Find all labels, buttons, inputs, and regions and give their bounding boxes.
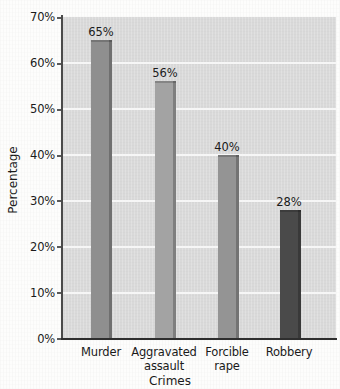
y-tick-label-10: 10% <box>30 286 55 300</box>
y-tick-label-40: 40% <box>30 148 55 162</box>
bar-murder-shadow <box>109 40 112 338</box>
x-category-label-robbery-line1: Robbery <box>247 346 331 360</box>
bar-value-label-robbery: 28% <box>259 195 319 209</box>
y-tick-label-50: 50% <box>30 102 55 116</box>
y-axis-title: Percentage <box>6 136 20 224</box>
bar-murder[interactable] <box>91 40 112 338</box>
bar-forcible-rape-shadow <box>236 155 239 338</box>
plot-area <box>62 17 336 338</box>
x-category-label-forcible-rape-line2: rape <box>185 360 269 374</box>
x-axis-line <box>61 338 337 340</box>
chart-title-cropped <box>0 0 340 4</box>
bar-murder-top <box>91 40 112 42</box>
y-tick-label-0: 0% <box>37 332 55 346</box>
bar-aggravated-assault-shadow <box>173 81 176 338</box>
y-axis-line <box>61 15 63 340</box>
bar-forcible-rape[interactable] <box>218 155 239 338</box>
chart-page: Percentage 70% 60% 50% 40% 30% 20% 10% 0… <box>0 0 340 389</box>
y-tick-label-30: 30% <box>30 194 55 208</box>
y-tick-label-20: 20% <box>30 240 55 254</box>
bar-value-label-aggravated-assault: 56% <box>135 66 195 80</box>
bar-robbery[interactable] <box>280 210 301 338</box>
bar-robbery-top <box>280 210 301 212</box>
bar-value-label-murder: 65% <box>71 25 131 39</box>
y-tick-label-60: 60% <box>30 56 55 70</box>
bar-forcible-rape-top <box>218 155 239 157</box>
bar-aggravated-assault[interactable] <box>155 81 176 338</box>
bar-aggravated-assault-top <box>155 81 176 83</box>
bar-robbery-shadow <box>298 210 301 338</box>
y-tick-label-70: 70% <box>30 10 55 24</box>
x-category-label-robbery: Robbery <box>247 346 331 360</box>
x-axis-title: Crimes <box>0 374 340 388</box>
bar-value-label-forcible-rape: 40% <box>197 140 257 154</box>
